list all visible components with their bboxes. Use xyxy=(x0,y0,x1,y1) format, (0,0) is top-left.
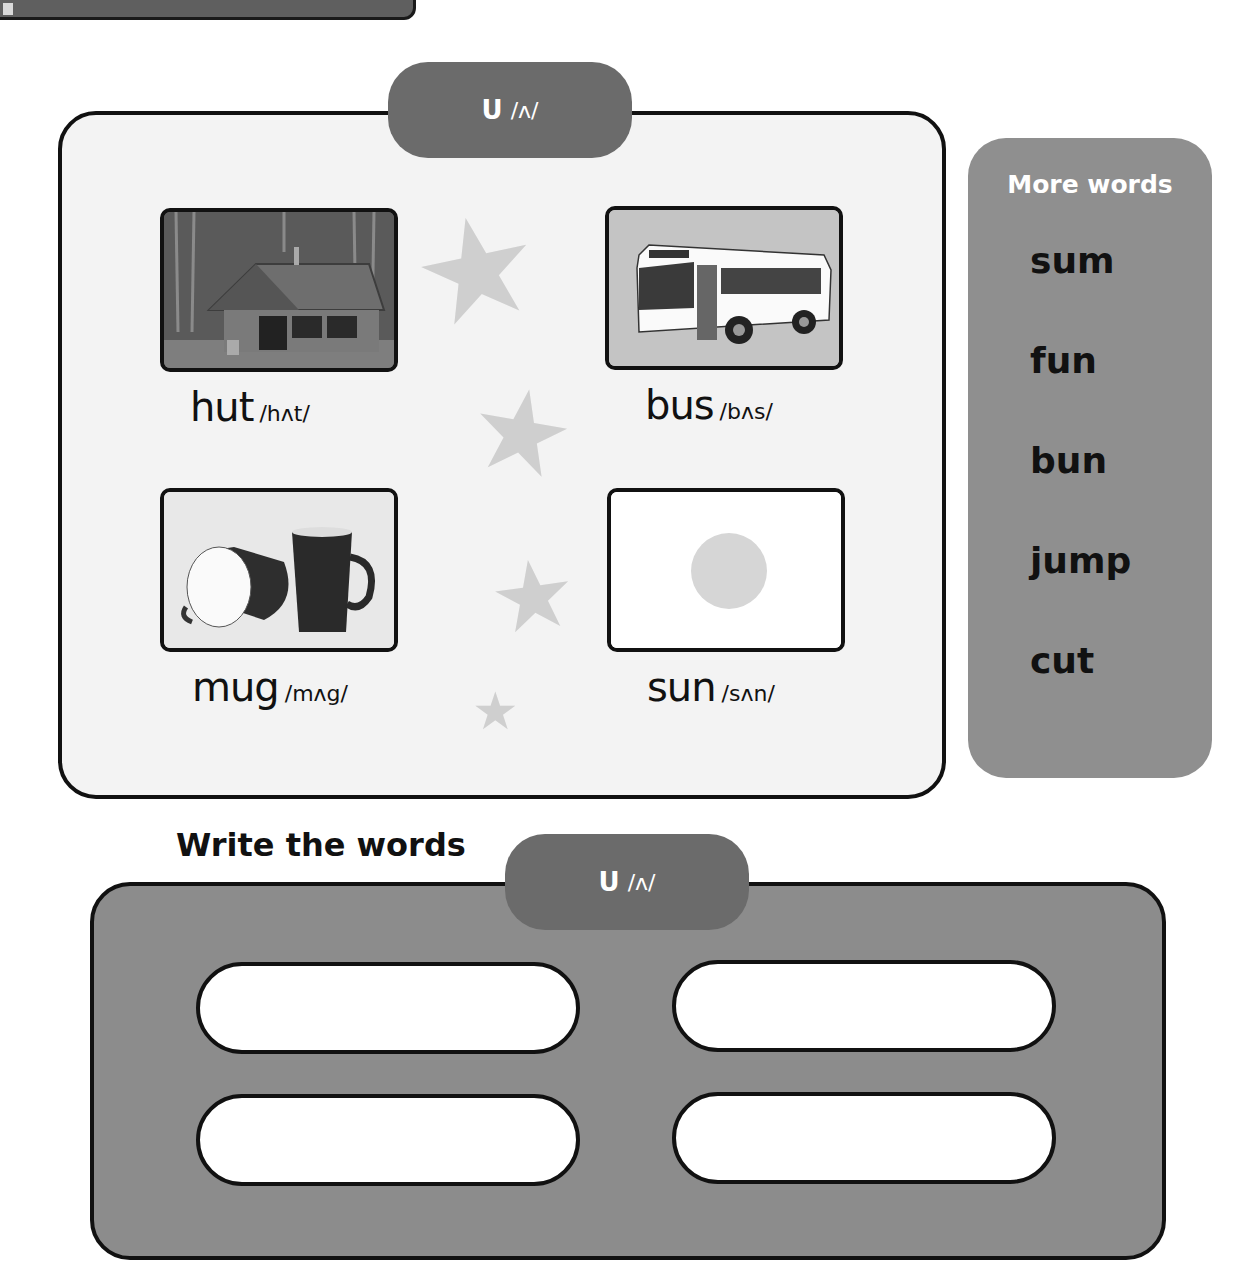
word-text: hut xyxy=(190,384,253,430)
word-ipa: /bʌs/ xyxy=(720,399,773,424)
answer-input-4[interactable] xyxy=(676,1096,1056,1182)
sound-letter: U xyxy=(599,867,620,897)
more-word-item: jump xyxy=(1030,540,1131,581)
more-word-item: cut xyxy=(1030,640,1094,681)
top-banner xyxy=(0,0,416,20)
answer-input-1[interactable] xyxy=(200,966,580,1052)
answer-box-3[interactable] xyxy=(196,1094,580,1186)
answer-box-1[interactable] xyxy=(196,962,580,1054)
word-label: bus/bʌs/ xyxy=(645,382,883,428)
answer-input-2[interactable] xyxy=(676,964,1056,1050)
write-sound-tab: U /ʌ/ xyxy=(505,834,749,930)
more-word-item: fun xyxy=(1030,340,1097,381)
more-words-title: More words xyxy=(968,170,1212,199)
word-ipa: /sʌn/ xyxy=(722,681,775,706)
bus-illustration xyxy=(609,210,839,366)
word-label: mug/mʌg/ xyxy=(192,664,430,710)
mug-illustration xyxy=(164,492,394,648)
more-words-panel: More words sum fun bun jump cut xyxy=(968,138,1212,778)
sun-image xyxy=(607,488,845,652)
sun-illustration xyxy=(611,492,841,648)
sound-tab: U /ʌ/ xyxy=(388,62,632,158)
bus-image xyxy=(605,206,843,370)
word-text: mug xyxy=(192,664,279,710)
write-section-title: Write the words xyxy=(176,826,466,864)
star-icon: ★ xyxy=(461,367,583,498)
answer-box-4[interactable] xyxy=(672,1092,1056,1184)
word-label: sun/sʌn/ xyxy=(647,664,885,710)
mug-image xyxy=(160,488,398,652)
answer-input-3[interactable] xyxy=(200,1098,580,1184)
hut-image xyxy=(160,208,398,372)
banner-chip xyxy=(3,3,13,15)
star-icon: ★ xyxy=(484,542,583,649)
answer-box-2[interactable] xyxy=(672,960,1056,1052)
sound-ipa: /ʌ/ xyxy=(628,870,656,895)
sound-ipa: /ʌ/ xyxy=(511,98,539,123)
word-ipa: /mʌg/ xyxy=(285,681,348,706)
write-panel xyxy=(90,882,1166,1260)
word-text: bus xyxy=(645,382,714,428)
sound-letter: U xyxy=(482,95,503,125)
star-icon: ★ xyxy=(472,685,519,737)
word-text: sun xyxy=(647,664,716,710)
more-word-item: bun xyxy=(1030,440,1107,481)
more-word-item: sum xyxy=(1030,240,1115,281)
word-label: hut/hʌt/ xyxy=(190,384,428,430)
word-ipa: /hʌt/ xyxy=(259,401,309,426)
hut-illustration xyxy=(164,212,394,368)
